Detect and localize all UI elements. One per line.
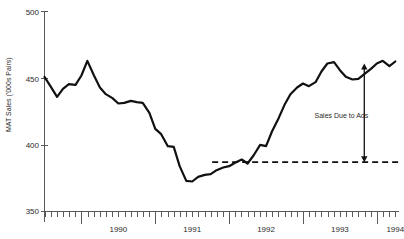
x-tick-label-1994: 1994 xyxy=(386,225,404,234)
x-axis-year-labels: 19901991199219931994 xyxy=(109,225,404,234)
chart-container: MAT Sales ('000s Pairs) 500 450 400 350 … xyxy=(0,0,404,239)
y-tick-label-500: 500 xyxy=(26,8,40,17)
y-tick-label-400: 400 xyxy=(26,141,40,150)
x-axis-ticks xyxy=(46,212,396,224)
x-tick-label-1992: 1992 xyxy=(257,225,275,234)
x-tick-label-1993: 1993 xyxy=(331,225,349,234)
x-tick-label-1991: 1991 xyxy=(183,225,201,234)
x-tick-label-1990: 1990 xyxy=(109,225,127,234)
y-tick-label-350: 350 xyxy=(26,207,40,216)
y-axis-label: MAT Sales ('000s Pairs) xyxy=(5,57,13,132)
arrow-head-top-icon xyxy=(361,64,367,70)
arrow-head-bottom-icon xyxy=(361,156,367,162)
annotation-label: Sales Due to Ads xyxy=(315,112,369,119)
sales-series-line xyxy=(45,61,396,182)
line-chart: MAT Sales ('000s Pairs) 500 450 400 350 … xyxy=(0,0,404,239)
y-tick-label-450: 450 xyxy=(26,75,40,84)
